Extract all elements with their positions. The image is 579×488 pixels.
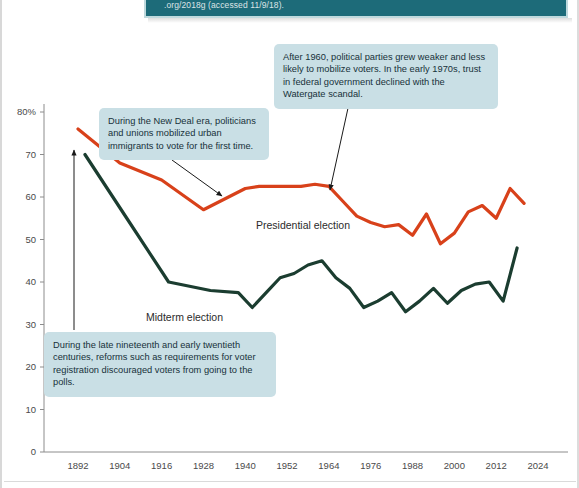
x-tick-label: 1904 — [100, 460, 140, 471]
y-tick-label: 40 — [2, 276, 36, 287]
y-tick-label: 30 — [2, 319, 36, 330]
x-tick-label: 1976 — [351, 460, 391, 471]
leader-after-1960 — [330, 99, 350, 190]
x-tick-label: 1988 — [393, 460, 433, 471]
x-tick-label: 1952 — [267, 460, 307, 471]
series-label-midterm: Midterm election — [146, 311, 223, 323]
annotation-new-deal: During the New Deal era, politicians and… — [99, 108, 269, 160]
leader-new-deal — [172, 160, 222, 196]
x-tick-label: 1940 — [225, 460, 265, 471]
annotation-reforms: During the late nineteenth and early twe… — [44, 332, 276, 397]
x-tick-label: 2012 — [476, 460, 516, 471]
x-tick-label: 2024 — [518, 460, 558, 471]
y-tick-label: 60 — [2, 191, 36, 202]
y-tick-label: 50 — [2, 234, 36, 245]
y-tick-label: 70 — [2, 149, 36, 160]
x-tick-label: 1892 — [58, 460, 98, 471]
series-label-presidential: Presidential election — [256, 219, 350, 231]
y-tick-label: 10 — [2, 404, 36, 415]
x-tick-label: 1964 — [309, 460, 349, 471]
annotation-after-1960: After 1960, political parties grew weake… — [274, 44, 498, 109]
x-tick-label: 1916 — [142, 460, 182, 471]
y-tick-label: 0 — [2, 446, 36, 457]
y-tick-label: 20 — [2, 361, 36, 372]
x-tick-label: 2000 — [434, 460, 474, 471]
x-tick-label: 1928 — [183, 460, 223, 471]
y-tick-label: 80% — [2, 106, 36, 117]
